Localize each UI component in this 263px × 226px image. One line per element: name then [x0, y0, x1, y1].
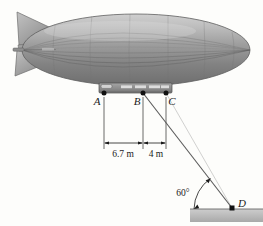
gondola-window [121, 85, 132, 88]
dimension-label-ab: 6.7 m [112, 149, 134, 159]
hull-marking [42, 48, 54, 50]
airship-envelope [22, 14, 250, 87]
point-label-b: B [134, 95, 141, 107]
dimension-line-bc [143, 141, 166, 144]
point-marker-d [230, 206, 235, 211]
gondola-window [161, 85, 169, 88]
dimension-line-ab [104, 141, 143, 144]
angle-label: 60° [176, 188, 190, 198]
dimension-label-bc: 4 m [149, 149, 164, 159]
point-marker-a [102, 91, 107, 96]
angle-arc [194, 179, 211, 210]
ground-surface [190, 209, 263, 222]
gondola-window [135, 85, 146, 88]
point-marker-b [141, 91, 146, 96]
gondola-cockpit-window [101, 84, 112, 88]
figure-canvas: A B C D 6.7 m 4 m 60° [0, 0, 263, 226]
point-label-c: C [168, 95, 176, 107]
point-label-a: A [93, 95, 101, 107]
gondola-window [149, 85, 160, 88]
point-label-d: D [237, 197, 246, 209]
gondola [99, 83, 172, 93]
